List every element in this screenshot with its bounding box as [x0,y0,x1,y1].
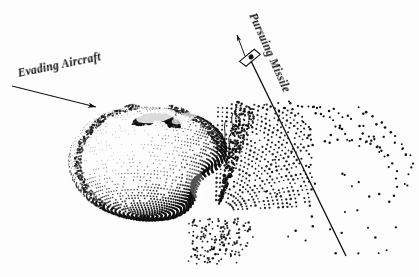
figure-root: Evading Aircraft Pursuing Missile [0,0,419,277]
reachable-set-scatter-plot [0,0,419,277]
